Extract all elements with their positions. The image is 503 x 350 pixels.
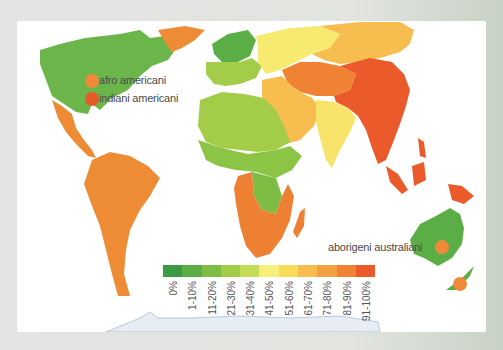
legend-label-text: 0% — [168, 281, 179, 295]
marker-afro-americani — [85, 74, 99, 88]
legend-swatch — [259, 265, 278, 277]
legend-color-scale — [163, 265, 375, 277]
legend-swatch — [202, 265, 221, 277]
legend-swatch — [356, 265, 375, 277]
region-australia — [410, 208, 464, 266]
region-europe — [206, 58, 262, 86]
legend-label-text: 81-90% — [342, 281, 353, 315]
legend-label: 61-70% — [298, 281, 317, 321]
marker-new-zealand — [453, 277, 467, 291]
label-afro-americani: afro americani — [99, 74, 166, 86]
legend-label: 91-100% — [356, 281, 375, 321]
legend-label: 11-20% — [202, 281, 221, 321]
region-india — [316, 100, 356, 168]
legend-label: 1-10% — [182, 281, 201, 321]
region-philippines — [418, 138, 426, 158]
legend-label-text: 1-10% — [187, 281, 198, 310]
legend-label-text: 11-20% — [207, 281, 218, 315]
label-indiani-americani: indiani americani — [99, 92, 178, 104]
legend-label: 31-40% — [240, 281, 259, 321]
legend-label: 51-60% — [279, 281, 298, 321]
region-south-america — [84, 152, 160, 296]
legend-label-text: 51-60% — [284, 281, 295, 315]
legend-label-text: 91-100% — [361, 281, 372, 321]
legend-label: 0% — [163, 281, 182, 321]
marker-indiani-americani — [85, 92, 99, 106]
legend-swatch — [240, 265, 259, 277]
legend-swatch — [317, 265, 336, 277]
legend-swatch — [279, 265, 298, 277]
legend-label: 41-50% — [259, 281, 278, 321]
map-panel: afro americani indiani americani aborige… — [17, 21, 486, 332]
legend-label-text: 61-70% — [303, 281, 314, 315]
region-borneo — [412, 162, 426, 186]
region-indonesia — [386, 166, 408, 194]
legend-label: 81-90% — [337, 281, 356, 321]
legend-label-text: 31-40% — [245, 281, 256, 315]
region-papua — [448, 184, 474, 204]
legend-swatch — [163, 265, 182, 277]
legend-swatch — [182, 265, 201, 277]
legend-label: 71-80% — [317, 281, 336, 321]
legend-label-text: 21-30% — [226, 281, 237, 315]
region-madagascar — [293, 208, 305, 238]
marker-aborigeni-australiani — [435, 240, 449, 254]
legend-swatch — [298, 265, 317, 277]
legend-swatch — [221, 265, 240, 277]
legend-labels: 0%1-10%11-20%21-30%31-40%41-50%51-60%61-… — [163, 281, 375, 321]
legend-swatch — [337, 265, 356, 277]
legend-label: 21-30% — [221, 281, 240, 321]
legend-label-text: 41-50% — [264, 281, 275, 315]
region-northern-europe — [212, 30, 256, 62]
legend-label-text: 71-80% — [322, 281, 333, 315]
label-aborigeni-australiani: aborigeni australiani — [328, 241, 422, 253]
